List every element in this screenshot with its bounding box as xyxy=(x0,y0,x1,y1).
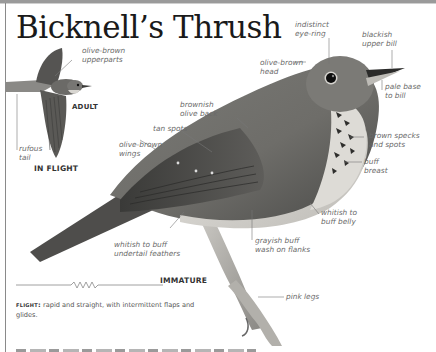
field-guide-page: Bicknell’s Thrush xyxy=(0,0,436,352)
label-upper-bill: blackish upper bill xyxy=(362,30,397,48)
label-legs: pink legs xyxy=(286,292,319,301)
caption-adult: ADULT xyxy=(72,103,98,111)
label-specks: brown specks and spots xyxy=(369,131,420,149)
flight-pattern-icon xyxy=(16,282,163,288)
label-belly: whitish to buff belly xyxy=(321,208,357,226)
caption-in-flight: IN FLIGHT xyxy=(34,164,78,173)
caption-immature: IMMATURE xyxy=(160,276,207,285)
flight-heading: flight: xyxy=(16,301,41,309)
label-flanks: grayish buff wash on flanks xyxy=(255,236,310,254)
label-head: olive-brown head xyxy=(260,58,303,76)
label-bill-base: pale base to bill xyxy=(385,82,421,100)
label-upperparts: olive-brown upperparts xyxy=(82,46,125,64)
flight-description: flight: rapid and straight, with intermi… xyxy=(16,300,216,320)
label-eye-ring: indistinct eye-ring xyxy=(295,20,329,38)
label-tan-spots: tan spots xyxy=(153,124,187,133)
label-back: brownish olive back xyxy=(180,100,217,118)
label-tail: rufous tail xyxy=(19,144,42,162)
label-breast: buff breast xyxy=(364,157,388,175)
label-wings: olive-brown wings xyxy=(119,140,162,158)
label-undertail: whitish to buff undertail feathers xyxy=(114,240,180,258)
flight-text: rapid and straight, with intermittent fl… xyxy=(16,301,194,319)
